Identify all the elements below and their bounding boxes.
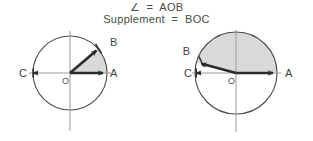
center-label-o: O bbox=[62, 76, 69, 86]
point-label-c: C bbox=[184, 67, 192, 79]
point-label-c: C bbox=[19, 67, 27, 79]
point-label-b: B bbox=[183, 45, 190, 57]
diagrams-canvas: A B C O A B C bbox=[0, 0, 313, 141]
point-label-b: B bbox=[110, 36, 117, 48]
angle-supplement-figure: ∠ = AOB Supplement = BOC bbox=[0, 0, 313, 141]
obtuse-angle-diagram: A B C O bbox=[183, 30, 293, 132]
acute-angle-diagram: A B C O bbox=[19, 31, 118, 131]
center-label-o: O bbox=[228, 76, 235, 86]
point-label-a: A bbox=[110, 67, 118, 79]
point-label-a: A bbox=[285, 67, 293, 79]
